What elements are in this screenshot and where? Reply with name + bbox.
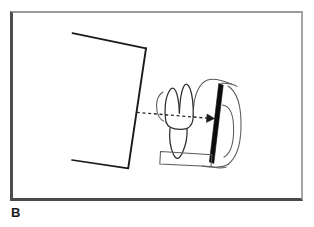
figure-panel-b: B [0,0,314,227]
figure-label: B [11,205,20,221]
figure-border-frame [10,11,303,201]
